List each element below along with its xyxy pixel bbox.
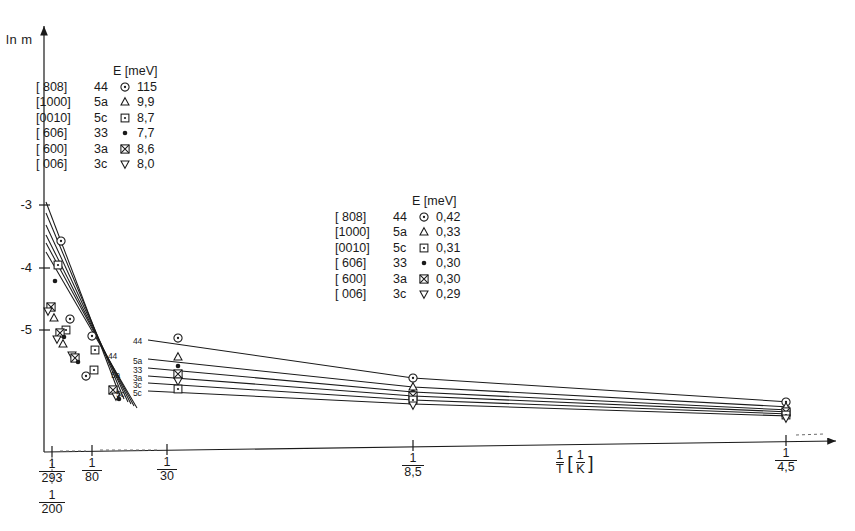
legend-high-index: 33 — [94, 126, 116, 141]
crossed-square-icon — [416, 272, 432, 286]
x-tick-85-den: 8,5 — [389, 467, 437, 478]
curve-end-label: 5c — [116, 390, 125, 399]
legend-high-value: 8,0 — [137, 157, 154, 172]
shallow-branch-markers — [174, 334, 790, 422]
arrhenius-plot-figure: ln m -3 -4 -5 1 293 1 80 1 30 1 8,5 1 4,… — [0, 0, 855, 531]
x-tick-200-num: 1 — [28, 490, 76, 501]
legend-low-index: 3a — [393, 272, 415, 287]
bracket-open: [ — [567, 452, 572, 474]
steep-branch-curves — [46, 202, 137, 408]
x-axis-label-fraction: 1 T — [556, 450, 564, 475]
x-axis-label: 1 T [ 1 K ] — [556, 450, 593, 475]
legend-high-value: 8,7 — [137, 111, 154, 126]
legend-low-marker — [416, 256, 432, 270]
x-axis-unit-den: K — [576, 462, 584, 476]
square-dot-icon — [416, 241, 432, 255]
legend-low-direction: [1000] — [335, 225, 393, 240]
legend-high-index: 5a — [94, 95, 116, 110]
legend-low-marker — [416, 225, 432, 239]
legend-high-marker — [117, 111, 133, 125]
legend-low-direction: [ 808] — [335, 210, 393, 225]
legend-high-value: 7,7 — [137, 126, 154, 141]
legend-low-value: 0,30 — [436, 256, 460, 271]
legend-high-index: 3a — [94, 142, 116, 157]
legend-high-index: 3c — [94, 157, 116, 172]
x-tick-label-200: 1 200 — [28, 490, 76, 515]
legend-high-value: 8,6 — [137, 142, 154, 157]
x-tick-45-num: 1 — [762, 448, 810, 459]
legend-high-direction: [ 600] — [36, 142, 94, 157]
legend-high-marker — [117, 142, 133, 156]
legend-low-marker — [416, 241, 432, 255]
legend-low-header-text: E [meV] — [412, 194, 456, 209]
triangle-down-icon — [416, 287, 432, 301]
legend-low-marker — [416, 210, 432, 224]
legend-high-marker — [117, 80, 133, 94]
legend-low-direction: [ 600] — [335, 272, 393, 287]
legend-low-value: 0,42 — [436, 210, 460, 225]
steep-branch-markers — [44, 237, 121, 401]
legend-high-value: 115 — [137, 80, 157, 95]
y-tick-label-2: -5 — [6, 322, 32, 337]
shallow-branch-curves — [148, 340, 790, 416]
legend-low-index: 5a — [393, 225, 415, 240]
legend-high-direction: [ 606] — [36, 126, 94, 141]
legend-low-value: 0,30 — [436, 272, 460, 287]
legend-high-marker — [117, 157, 133, 171]
legend-low-marker — [416, 287, 432, 301]
x-axis-unit-num: 1 — [577, 448, 584, 462]
x-tick-label-30: 1 30 — [143, 457, 191, 482]
y-tick-label-0: -3 — [6, 197, 32, 212]
legend-high-value: 9,9 — [137, 95, 154, 110]
legend-low-index: 33 — [393, 256, 415, 271]
x-axis-label-den: T — [556, 462, 564, 476]
x-tick-80-den: 80 — [68, 472, 116, 483]
legend-low-direction: [ 606] — [335, 256, 393, 271]
x-tick-30-num: 1 — [143, 457, 191, 468]
triangle-up-icon — [416, 225, 432, 239]
triangle-up-icon — [117, 95, 133, 109]
legend-high-header-text: E [meV] — [113, 64, 157, 79]
legend-high-index: 5c — [94, 111, 116, 126]
square-dot-icon — [117, 111, 133, 125]
legend-low-index: 3c — [393, 287, 415, 302]
steep-curve-44 — [46, 202, 120, 396]
legend-low-direction: [0010] — [335, 241, 393, 256]
legend-low-value: 0,29 — [436, 287, 460, 302]
legend-high-direction: [ 808] — [36, 80, 94, 95]
x-tick-label-85: 1 8,5 — [389, 453, 437, 478]
curve-end-label: 5c — [133, 389, 142, 398]
x-axis-unit-fraction: 1 K — [576, 450, 584, 475]
legend-low-index: 44 — [393, 210, 415, 225]
x-tick-200-den: 200 — [28, 504, 76, 515]
x-tick-label-45: 1 4,5 — [762, 448, 810, 473]
x-tick-80-num: 1 — [68, 458, 116, 469]
curve-end-label: 44 — [108, 352, 117, 361]
curve-end-label: 5a — [111, 371, 120, 380]
bracket-close: ] — [588, 452, 593, 474]
filled-dot-icon — [117, 126, 133, 140]
crossed-square-icon — [117, 142, 133, 156]
legend-high-marker — [117, 126, 133, 140]
x-tick-30-den: 30 — [143, 471, 191, 482]
legend-high-direction: [0010] — [36, 111, 94, 126]
x-axis-label-num: 1 — [556, 448, 563, 462]
shallow-curve-44 — [148, 340, 790, 402]
circle-dot-icon — [416, 210, 432, 224]
triangle-down-icon — [117, 157, 133, 171]
legend-high-index: 44 — [94, 80, 116, 95]
legend-high-marker — [117, 95, 133, 109]
legend-low-value: 0,33 — [436, 225, 460, 240]
x-tick-45-den: 4,5 — [762, 462, 810, 473]
y-tick-label-1: -4 — [6, 260, 32, 275]
x-tick-label-80: 1 80 — [68, 458, 116, 483]
legend-low-marker — [416, 272, 432, 286]
circle-dot-icon — [117, 80, 133, 94]
legend-high-direction: [1000] — [36, 95, 94, 110]
legend-low-value: 0,31 — [436, 241, 460, 256]
legend-high-direction: [ 006] — [36, 157, 94, 172]
x-tick-85-num: 1 — [389, 453, 437, 464]
y-axis-label: ln m — [6, 32, 33, 47]
legend-low-direction: [ 006] — [335, 287, 393, 302]
curve-end-label: 44 — [133, 337, 142, 346]
